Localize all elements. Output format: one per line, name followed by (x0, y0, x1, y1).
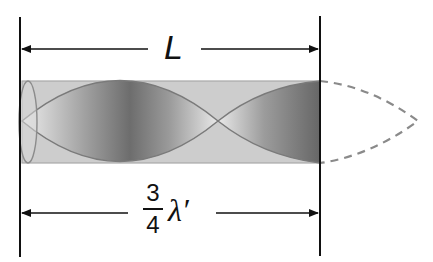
fraction-bar (143, 208, 163, 210)
fraction-denominator: 4 (146, 213, 159, 237)
tube (19, 81, 320, 164)
length-label: L (164, 30, 183, 64)
fraction-label: 3 4 (143, 181, 163, 237)
wavelength-symbol: λ′ (168, 194, 189, 226)
standing-wave-diagram (0, 0, 433, 262)
wave-continuation-dashed (320, 81, 418, 163)
tube-open-end (19, 81, 37, 163)
fraction-numerator: 3 (146, 181, 159, 205)
